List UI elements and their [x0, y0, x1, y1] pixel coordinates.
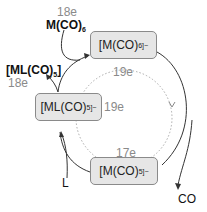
ligand-label: L: [62, 176, 69, 190]
co-label: CO: [178, 192, 196, 206]
arrowhead-co: [175, 183, 181, 190]
reagent-in-arrow: [61, 30, 80, 60]
species-bottom: [M(CO)5]−: [90, 157, 158, 185]
ligand-in-arrow: [62, 135, 67, 178]
arc-left-bottom: [60, 132, 90, 172]
top-electron-count: 19e: [113, 65, 133, 79]
left-electron-count: 19e: [104, 100, 124, 114]
arc-left-top: [58, 56, 88, 92]
species-top: [M(CO)6]−: [90, 31, 157, 59]
product-electron-count: 18e: [8, 76, 28, 90]
reagent-electron-count: 18e: [57, 5, 77, 19]
co-out-arrow: [178, 120, 192, 185]
species-left: [ML(CO)5]−: [35, 93, 102, 121]
reagent-label: M(CO)6: [46, 18, 86, 33]
